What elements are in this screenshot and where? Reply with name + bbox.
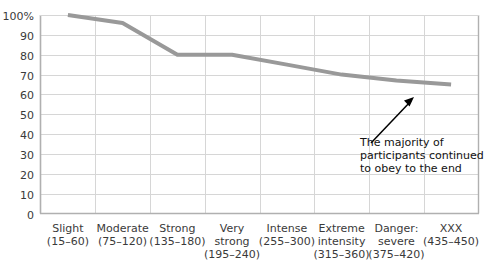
line-chart: 100%9080706050403020100 Slight(15–60)Mod… — [0, 0, 499, 279]
x-tick-label: intensity — [318, 235, 366, 248]
x-tick-label: XXX — [440, 222, 463, 235]
y-tick-label: 70 — [20, 70, 34, 83]
x-tick-label: Extreme — [318, 222, 365, 235]
x-tick-label: (195–240) — [204, 248, 260, 261]
y-tick-label: 60 — [20, 89, 34, 102]
x-tick-label: Moderate — [96, 222, 149, 235]
y-tick-label: 10 — [20, 189, 34, 202]
annotation-line-1: The majority of — [359, 136, 445, 149]
y-tick-label: 50 — [20, 109, 34, 122]
y-tick-label: 90 — [20, 30, 34, 43]
annotation-line-2: participants continued — [360, 149, 484, 162]
x-tick-label: (135–180) — [149, 235, 205, 248]
x-tick-label: (315–360) — [314, 248, 370, 261]
x-tick-label: severe — [378, 235, 415, 248]
x-tick-label: (255–300) — [259, 235, 315, 248]
annotation-line-3: to obey to the end — [360, 162, 462, 175]
y-tick-label: 40 — [20, 129, 34, 142]
x-tick-label: strong — [215, 235, 250, 248]
x-tick-label: (15–60) — [47, 235, 89, 248]
x-tick-label: (75–120) — [98, 235, 147, 248]
x-tick-label: Very — [220, 222, 245, 235]
x-tick-label: Danger: — [374, 222, 418, 235]
chart-canvas: 100%9080706050403020100 Slight(15–60)Mod… — [0, 0, 499, 279]
x-tick-label: Strong — [159, 222, 195, 235]
x-tick-label: (375–420) — [368, 248, 424, 261]
x-tick-label: Slight — [52, 222, 84, 235]
x-tick-label: (435–450) — [423, 235, 479, 248]
y-tick-label: 100% — [3, 10, 34, 23]
y-tick-label: 30 — [20, 149, 34, 162]
y-tick-label: 20 — [20, 169, 34, 182]
y-tick-label: 80 — [20, 50, 34, 63]
x-tick-label: Intense — [267, 222, 308, 235]
y-tick-label: 0 — [27, 209, 34, 222]
